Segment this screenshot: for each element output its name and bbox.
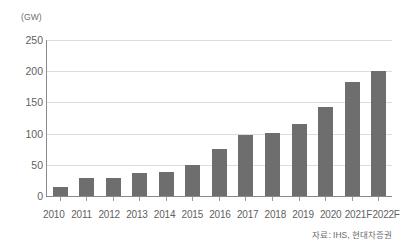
x-tick-slot bbox=[74, 197, 101, 202]
x-tick-slot bbox=[180, 197, 207, 202]
x-tick-slot bbox=[365, 197, 392, 202]
bar bbox=[371, 71, 386, 196]
x-label-slot: 2012 bbox=[95, 204, 123, 222]
y-axis-tick-label: 150 bbox=[3, 96, 43, 108]
x-axis-tick-label: 2013 bbox=[126, 209, 147, 220]
bar bbox=[159, 172, 174, 196]
bar-slot bbox=[74, 40, 101, 196]
x-tick-mark bbox=[166, 197, 167, 201]
bar bbox=[238, 135, 253, 196]
x-tick-slot bbox=[47, 197, 74, 202]
bar bbox=[318, 107, 333, 196]
x-tick-mark bbox=[139, 197, 140, 201]
bar bbox=[53, 187, 68, 196]
bar-slot bbox=[47, 40, 74, 196]
x-label-slot: 2016 bbox=[206, 204, 234, 222]
y-axis-tick-label: 200 bbox=[3, 65, 43, 77]
x-axis-tick-label: 2015 bbox=[182, 209, 203, 220]
x-axis-tick-label: 2021F bbox=[345, 209, 372, 220]
x-axis-tick-label: 2019 bbox=[292, 209, 313, 220]
bar bbox=[79, 178, 94, 196]
x-axis-tick-labels: 2010201120122013201420152016201720182019… bbox=[40, 204, 400, 222]
bar bbox=[212, 149, 227, 196]
x-axis-tick-label: 2016 bbox=[209, 209, 230, 220]
bar-slot bbox=[312, 40, 339, 196]
x-label-slot: 2014 bbox=[151, 204, 179, 222]
bar-slot bbox=[153, 40, 180, 196]
bar bbox=[132, 173, 147, 196]
x-tick-mark bbox=[86, 197, 87, 201]
x-tick-mark bbox=[60, 197, 61, 201]
x-axis-tick-label: 2017 bbox=[237, 209, 258, 220]
x-tick-slot bbox=[339, 197, 366, 202]
bar-chart-figure: (GW) 050100150200250 2010201120122013201… bbox=[0, 0, 404, 250]
x-axis-tick-marks bbox=[47, 197, 392, 202]
x-label-slot: 2011 bbox=[68, 204, 96, 222]
x-label-slot: 2021F bbox=[345, 204, 373, 222]
x-label-slot: 2010 bbox=[40, 204, 68, 222]
x-tick-slot bbox=[206, 197, 233, 202]
x-tick-mark bbox=[378, 197, 379, 201]
bar bbox=[292, 124, 307, 196]
y-axis-tick-label: 100 bbox=[3, 128, 43, 140]
bar-slot bbox=[259, 40, 286, 196]
x-tick-mark bbox=[352, 197, 353, 201]
bar-slot bbox=[206, 40, 233, 196]
x-tick-mark bbox=[245, 197, 246, 201]
bar-slot bbox=[100, 40, 127, 196]
x-tick-slot bbox=[259, 197, 286, 202]
bar-slot bbox=[127, 40, 154, 196]
y-axis-tick-label: 50 bbox=[3, 159, 43, 171]
x-label-slot: 2013 bbox=[123, 204, 151, 222]
x-axis-tick-label: 2022F bbox=[372, 209, 399, 220]
x-tick-mark bbox=[192, 197, 193, 201]
x-tick-slot bbox=[286, 197, 313, 202]
bar-slot bbox=[233, 40, 260, 196]
x-label-slot: 2018 bbox=[262, 204, 290, 222]
y-axis-tick-labels: 050100150200250 bbox=[0, 0, 43, 250]
bar bbox=[345, 82, 360, 196]
x-tick-mark bbox=[272, 197, 273, 201]
x-tick-mark bbox=[113, 197, 114, 201]
source-note: 자료: IHS, 현대차증권 bbox=[312, 228, 392, 240]
x-label-slot: 2022F bbox=[372, 204, 400, 222]
bar-slot bbox=[365, 40, 392, 196]
x-axis-tick-label: 2020 bbox=[320, 209, 341, 220]
x-label-slot: 2017 bbox=[234, 204, 262, 222]
bar bbox=[265, 133, 280, 196]
x-axis-tick-label: 2010 bbox=[43, 209, 64, 220]
bar-slot bbox=[339, 40, 366, 196]
y-axis-tick-label: 250 bbox=[3, 34, 43, 46]
x-label-slot: 2020 bbox=[317, 204, 345, 222]
x-axis-tick-label: 2011 bbox=[71, 209, 92, 220]
x-tick-slot bbox=[312, 197, 339, 202]
bar-series bbox=[47, 40, 392, 196]
x-tick-mark bbox=[325, 197, 326, 201]
x-tick-mark bbox=[299, 197, 300, 201]
bar-slot bbox=[286, 40, 313, 196]
x-tick-slot bbox=[233, 197, 260, 202]
x-tick-slot bbox=[100, 197, 127, 202]
x-tick-slot bbox=[153, 197, 180, 202]
bar-slot bbox=[180, 40, 207, 196]
y-axis-tick-label: 0 bbox=[3, 190, 43, 202]
x-axis-tick-label: 2014 bbox=[154, 209, 175, 220]
x-tick-mark bbox=[219, 197, 220, 201]
x-axis-tick-label: 2018 bbox=[265, 209, 286, 220]
x-axis-tick-label: 2012 bbox=[98, 209, 119, 220]
x-tick-slot bbox=[127, 197, 154, 202]
x-label-slot: 2015 bbox=[178, 204, 206, 222]
bar bbox=[106, 178, 121, 196]
x-label-slot: 2019 bbox=[289, 204, 317, 222]
bar bbox=[185, 165, 200, 196]
